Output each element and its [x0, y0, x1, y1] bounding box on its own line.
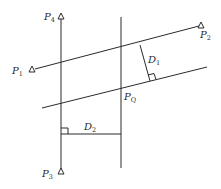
p1-triangle-icon: [29, 66, 35, 72]
label-p3: P3: [41, 168, 53, 181]
label-d1: D1: [147, 54, 160, 67]
line-p1-p2: [35, 26, 199, 69]
label-p2: P2: [199, 29, 211, 42]
p3-triangle-icon: [58, 168, 64, 174]
geometry-diagram: P4 P1 P2 P3 PQ D1 D2: [0, 0, 221, 189]
label-d2: D2: [83, 121, 96, 134]
label-p4: P4: [43, 11, 55, 24]
d2-right-angle-marker: [61, 128, 68, 134]
p2-triangle-icon: [198, 22, 204, 28]
label-pq: PQ: [123, 91, 136, 104]
label-p1: P1: [11, 65, 23, 78]
p4-triangle-icon: [58, 13, 64, 19]
